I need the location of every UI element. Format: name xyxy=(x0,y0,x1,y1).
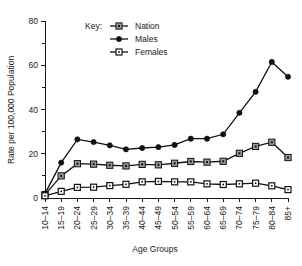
data-point-females-center xyxy=(109,185,111,187)
data-point-females-center xyxy=(44,195,46,197)
data-point-nation-center xyxy=(271,141,273,143)
data-point-males xyxy=(123,147,128,152)
legend-marker-nation-center xyxy=(118,25,120,27)
data-point-males xyxy=(269,59,274,64)
data-point-females-center xyxy=(222,184,224,186)
data-point-nation-center xyxy=(76,163,78,165)
data-point-females-center xyxy=(125,183,127,185)
data-series-group xyxy=(42,59,291,198)
x-tick-label: 80–84 xyxy=(267,206,277,230)
x-tick-label: 20–24 xyxy=(72,206,82,230)
data-point-nation-center xyxy=(60,175,62,177)
data-point-males xyxy=(237,110,242,115)
data-point-males xyxy=(172,142,177,147)
data-point-nation-center xyxy=(206,161,208,163)
y-tick-label: 20 xyxy=(29,149,39,159)
legend-entry-males: Males xyxy=(110,34,158,44)
data-point-females-center xyxy=(206,183,208,185)
data-point-males xyxy=(140,145,145,150)
x-axis-title: Age Groups xyxy=(132,244,177,254)
data-point-females-center xyxy=(190,181,192,183)
series-line-females xyxy=(45,181,288,195)
series-males xyxy=(42,59,290,196)
data-point-males xyxy=(91,139,96,144)
x-tick-label: 55–59 xyxy=(186,206,196,230)
y-tick-label: 40 xyxy=(29,105,39,115)
x-tick-label: 65–69 xyxy=(218,206,228,230)
chart-page: 020406080 10–1415–1920–2425–2930–3435–39… xyxy=(0,0,302,266)
data-point-nation-center xyxy=(222,160,224,162)
x-tick-label: 30–34 xyxy=(105,206,115,230)
data-point-nation-center xyxy=(190,160,192,162)
x-axis: 10–1415–1920–2425–2930–3435–3940–4445–49… xyxy=(40,198,293,230)
y-axis: 020406080 xyxy=(29,16,45,203)
data-point-males xyxy=(188,136,193,141)
x-tick-label: 75–79 xyxy=(251,206,261,230)
data-point-males xyxy=(285,74,290,79)
y-tick-label: 60 xyxy=(29,60,39,70)
chart-legend: Key:NationMalesFemales xyxy=(85,21,168,57)
x-tick-label: 70–74 xyxy=(234,206,244,230)
data-point-nation-center xyxy=(174,162,176,164)
data-point-females-center xyxy=(271,185,273,187)
data-point-females-center xyxy=(60,191,62,193)
data-point-nation-center xyxy=(125,165,127,167)
data-point-females-center xyxy=(93,186,95,188)
y-tick-label: 0 xyxy=(33,193,38,203)
legend-entry-females: Females xyxy=(110,47,168,57)
data-point-females-center xyxy=(287,189,289,191)
x-tick-label: 15–19 xyxy=(56,206,66,230)
x-tick-label: 60–64 xyxy=(202,206,212,230)
data-point-nation-center xyxy=(109,164,111,166)
data-point-males xyxy=(253,89,258,94)
legend-label: Nation xyxy=(135,21,160,31)
legend-label: Females xyxy=(135,47,168,57)
data-point-males xyxy=(75,137,80,142)
legend-entry-nation: Nation xyxy=(110,21,160,31)
data-point-nation-center xyxy=(141,163,143,165)
data-point-nation-center xyxy=(238,152,240,154)
x-tick-label: 85+ xyxy=(283,206,293,220)
data-point-nation-center xyxy=(255,145,257,147)
line-chart: 020406080 10–1415–1920–2425–2930–3435–39… xyxy=(0,0,302,266)
data-point-females-center xyxy=(141,181,143,183)
x-tick-label: 45–49 xyxy=(153,206,163,230)
data-point-females-center xyxy=(239,183,241,185)
data-point-males xyxy=(107,143,112,148)
y-tick-label: 80 xyxy=(29,16,39,26)
data-point-nation-center xyxy=(93,163,95,165)
x-tick-label: 50–54 xyxy=(170,206,180,230)
legend-marker-females-center xyxy=(118,51,120,53)
y-axis-title: Rate per 100,000 Population xyxy=(6,56,16,164)
data-point-females-center xyxy=(174,181,176,183)
series-line-males xyxy=(45,62,288,194)
x-tick-label: 10–14 xyxy=(40,206,50,230)
data-point-females-center xyxy=(77,187,79,189)
data-point-females-center xyxy=(158,181,160,183)
data-point-males xyxy=(156,145,161,150)
series-females xyxy=(42,178,291,198)
data-point-males xyxy=(204,136,209,141)
legend-title: Key: xyxy=(85,21,102,31)
legend-label: Males xyxy=(135,34,158,44)
x-tick-label: 40–44 xyxy=(137,206,147,230)
legend-marker-males xyxy=(116,36,121,41)
data-point-females-center xyxy=(255,182,257,184)
data-point-males xyxy=(221,132,226,137)
data-point-males xyxy=(59,160,64,165)
x-tick-label: 35–39 xyxy=(121,206,131,230)
data-point-nation-center xyxy=(287,157,289,159)
x-tick-label: 25–29 xyxy=(89,206,99,230)
data-point-nation-center xyxy=(157,164,159,166)
